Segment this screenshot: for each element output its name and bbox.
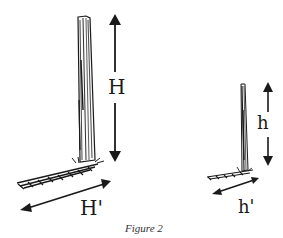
label-shadow-large: H' (80, 198, 103, 218)
small-shadow (207, 170, 253, 180)
small-stick (241, 84, 248, 171)
label-height-large: H (108, 77, 125, 97)
label-height-small: h (257, 114, 269, 132)
large-shadow (17, 164, 98, 189)
figure-2: H H' h h' Figure 2 (0, 0, 283, 238)
shadow-arrow-small (212, 177, 259, 195)
figure-caption: Figure 2 (125, 222, 163, 234)
label-shadow-small: h' (238, 198, 255, 216)
large-stick (78, 16, 95, 162)
